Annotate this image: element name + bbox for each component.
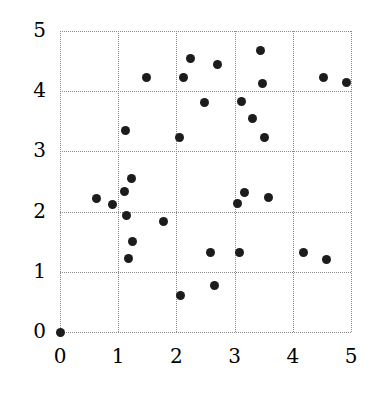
y-axis-tick-label: 0 — [16, 321, 46, 341]
data-point — [120, 187, 129, 196]
scatter-plot-figure: 012345012345 — [0, 0, 372, 394]
plot-area — [60, 31, 351, 332]
data-point — [127, 174, 136, 183]
data-point — [248, 114, 257, 123]
gridline-vertical — [351, 31, 352, 332]
gridline-horizontal — [60, 332, 351, 333]
data-point — [176, 291, 185, 300]
data-point — [128, 237, 137, 246]
data-point — [159, 217, 168, 226]
gridline-horizontal — [60, 31, 351, 32]
data-point — [108, 200, 117, 209]
data-point — [121, 126, 130, 135]
x-axis-tick-label: 1 — [103, 346, 133, 366]
data-point — [206, 248, 215, 257]
data-point — [237, 97, 246, 106]
data-point — [299, 248, 308, 257]
data-point — [210, 281, 219, 290]
data-point — [258, 79, 267, 88]
data-point — [264, 193, 273, 202]
gridline-vertical — [60, 31, 61, 332]
data-point — [92, 194, 101, 203]
data-point — [142, 73, 151, 82]
gridline-vertical — [235, 31, 236, 332]
data-point — [175, 133, 184, 142]
y-axis-tick-label: 5 — [16, 20, 46, 40]
y-axis-tick-label: 4 — [16, 80, 46, 100]
y-axis-tick-label: 1 — [16, 261, 46, 281]
data-point — [200, 98, 209, 107]
gridline-horizontal — [60, 151, 351, 152]
data-point — [213, 60, 222, 69]
x-axis-tick-label: 5 — [336, 346, 366, 366]
gridline-vertical — [293, 31, 294, 332]
y-axis-tick-label: 2 — [16, 201, 46, 221]
x-axis-tick-label: 4 — [278, 346, 308, 366]
gridline-horizontal — [60, 272, 351, 273]
data-point — [260, 133, 269, 142]
data-point — [240, 188, 249, 197]
y-axis-tick-label: 3 — [16, 140, 46, 160]
data-point — [235, 248, 244, 257]
data-point — [179, 73, 188, 82]
x-axis-tick-label: 0 — [45, 346, 75, 366]
gridline-horizontal — [60, 91, 351, 92]
x-axis-tick-label: 2 — [161, 346, 191, 366]
gridline-horizontal — [60, 212, 351, 213]
gridline-vertical — [118, 31, 119, 332]
data-point — [56, 328, 65, 337]
x-axis-tick-label: 3 — [220, 346, 250, 366]
data-point — [319, 73, 328, 82]
gridline-vertical — [176, 31, 177, 332]
data-point — [233, 199, 242, 208]
data-point — [322, 255, 331, 264]
data-point — [186, 54, 195, 63]
data-point — [342, 78, 351, 87]
data-point — [122, 211, 131, 220]
data-point — [256, 46, 265, 55]
data-point — [124, 254, 133, 263]
